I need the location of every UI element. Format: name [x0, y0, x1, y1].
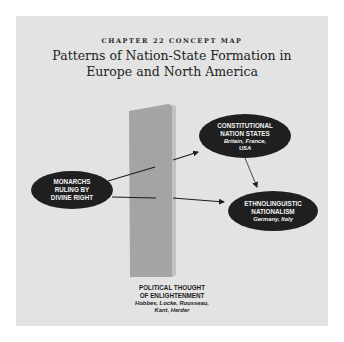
ethnolinguistic-label: ETHNOLINGUISTIC NATIONALISM Germany, Ita…	[228, 200, 318, 223]
arrow-to-constitutional	[173, 152, 198, 160]
pillar-label: POLITICAL THOUGHT OF ENLIGHTENMENT Hobbe…	[110, 284, 234, 314]
arrow-constitutional-to-ethnolinguistic	[245, 158, 257, 187]
enlightenment-pillar	[129, 104, 176, 277]
arrow-to-ethnolinguistic	[173, 198, 224, 202]
monarchs-label: MONARCHS RULING BY DIVINE RIGHT	[32, 178, 112, 202]
pillar-front-face	[129, 104, 172, 277]
constitutional-label: CONSTITUTIONAL NATION STATES Britain, Fr…	[199, 122, 291, 152]
